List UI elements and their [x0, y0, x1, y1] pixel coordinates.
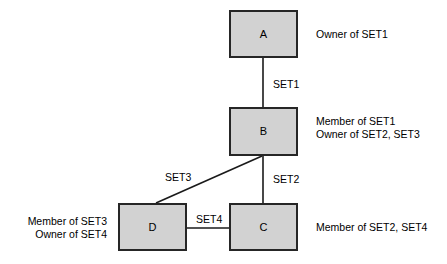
- node-c-label: C: [259, 222, 267, 233]
- annotation-node-a: Owner of SET1: [316, 28, 388, 41]
- node-b[interactable]: B: [229, 107, 298, 156]
- node-a[interactable]: A: [229, 10, 298, 58]
- annotation-node-b-line-1: Member of SET1: [316, 115, 420, 128]
- edge-label-set2: SET2: [271, 173, 301, 185]
- edge-label-set3: SET3: [163, 171, 193, 183]
- edge-label-set4: SET4: [194, 213, 224, 225]
- node-d[interactable]: D: [118, 203, 187, 251]
- node-b-label: B: [260, 126, 268, 137]
- annotation-node-a-line-1: Owner of SET1: [316, 28, 388, 41]
- annotation-node-d: Member of SET3 Owner of SET4: [18, 215, 107, 241]
- node-c[interactable]: C: [229, 203, 298, 251]
- annotation-node-b: Member of SET1 Owner of SET2, SET3: [316, 115, 420, 141]
- node-a-label: A: [260, 29, 268, 40]
- edge-label-set1: SET1: [271, 78, 301, 90]
- annotation-node-c: Member of SET2, SET4: [316, 221, 427, 234]
- annotation-node-c-line-1: Member of SET2, SET4: [316, 221, 427, 234]
- node-d-label: D: [148, 222, 156, 233]
- annotation-node-d-line-2: Owner of SET4: [18, 228, 107, 241]
- annotation-node-d-line-1: Member of SET3: [18, 215, 107, 228]
- annotation-node-b-line-2: Owner of SET2, SET3: [316, 128, 420, 141]
- set-relationship-diagram: A Owner of SET1 B Member of SET1 Owner o…: [0, 0, 447, 264]
